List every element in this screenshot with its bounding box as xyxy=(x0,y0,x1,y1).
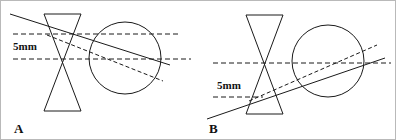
figure-container: 5mm A 5mm B xyxy=(0,0,396,140)
ray-diagram-svg: 5mm A 5mm B xyxy=(1,1,396,140)
panel-label-a: A xyxy=(14,121,24,136)
lens-circle-a xyxy=(89,22,161,94)
dimension-label-b: 5mm xyxy=(217,79,241,91)
panel-a: 5mm A xyxy=(10,14,191,136)
dimension-label-a: 5mm xyxy=(13,40,37,52)
panel-b: 5mm B xyxy=(207,15,391,136)
panel-label-b: B xyxy=(209,121,218,136)
bowtie-shape-a xyxy=(44,14,81,111)
